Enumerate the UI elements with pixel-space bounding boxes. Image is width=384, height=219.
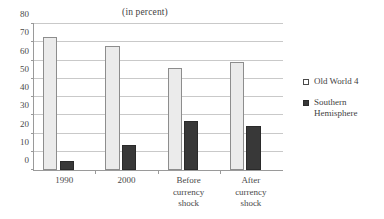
y-axis-tick-label: 70 [20, 27, 29, 37]
y-axis-tick-label: 40 [20, 82, 29, 92]
y-axis-tick-label: 80 [20, 9, 29, 19]
bar-group [159, 24, 221, 170]
x-axis-category-label: Beforecurrencyshock [158, 173, 220, 219]
bar-group [96, 24, 158, 170]
y-axis-tick-label: 10 [20, 137, 29, 147]
chart-title: (in percent) [0, 7, 290, 17]
y-axis-tick-label: 20 [20, 119, 29, 129]
x-axis-category-label: Aftercurrencyshock [220, 173, 282, 219]
bar-group [34, 24, 96, 170]
x-axis-category-label: 2000 [95, 173, 157, 219]
legend-swatch-light [303, 79, 309, 85]
chart-legend: Old World 4SouthernHemisphere [303, 76, 384, 129]
legend-item[interactable]: Old World 4 [303, 76, 384, 88]
bar [230, 62, 244, 170]
plot-area: 01020304050607080 [33, 24, 283, 171]
legend-label: Old World 4 [314, 76, 359, 88]
bar [184, 121, 198, 170]
bar [168, 68, 182, 170]
bar [246, 126, 260, 170]
y-axis-tick-label: 50 [20, 64, 29, 74]
bar-groups [34, 24, 283, 170]
y-axis-tick-label: 30 [20, 100, 29, 110]
bar-chart: (in percent) 01020304050607080 19902000B… [0, 0, 384, 219]
bar [60, 161, 74, 170]
bar [43, 37, 57, 170]
x-axis-category-label: 1990 [33, 173, 95, 219]
bar [122, 145, 136, 170]
y-axis-tick-label: 60 [20, 46, 29, 56]
bar-group [221, 24, 283, 170]
legend-label: SouthernHemisphere [314, 97, 357, 120]
x-axis-labels: 19902000BeforecurrencyshockAftercurrency… [33, 173, 282, 219]
legend-swatch-dark [303, 100, 309, 106]
y-axis-tick-label: 0 [25, 155, 30, 165]
bar [105, 46, 119, 170]
legend-item[interactable]: SouthernHemisphere [303, 97, 384, 120]
